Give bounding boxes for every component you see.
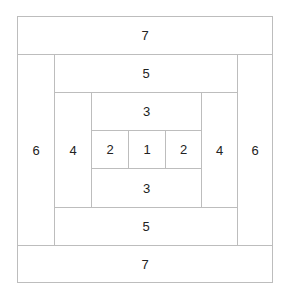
piece-left-4: 4	[54, 92, 92, 208]
piece-label: 2	[106, 142, 113, 157]
piece-label: 1	[143, 142, 150, 157]
piece-left-6: 6	[17, 54, 55, 246]
piece-label: 2	[180, 142, 187, 157]
piece-bottom-5: 5	[54, 207, 238, 246]
piece-center-1: 1	[128, 130, 166, 169]
piece-right-6: 6	[237, 54, 273, 246]
piece-label: 6	[32, 143, 39, 158]
piece-top-7: 7	[17, 16, 273, 55]
piece-left-2: 2	[91, 130, 129, 169]
piece-label: 3	[143, 181, 150, 196]
piece-label: 4	[69, 143, 76, 158]
piece-label: 3	[143, 104, 150, 119]
piece-bottom-7: 7	[17, 245, 273, 283]
piece-top-5: 5	[54, 54, 238, 93]
piece-label: 6	[251, 143, 258, 158]
piece-label: 7	[141, 257, 148, 272]
piece-bottom-3: 3	[91, 168, 202, 208]
piece-label: 4	[216, 143, 223, 158]
piece-label: 5	[142, 66, 149, 81]
piece-label: 5	[142, 219, 149, 234]
piece-right-2: 2	[165, 130, 202, 169]
piece-label: 7	[141, 28, 148, 43]
piece-right-4: 4	[201, 92, 238, 208]
piece-top-3: 3	[91, 92, 202, 131]
